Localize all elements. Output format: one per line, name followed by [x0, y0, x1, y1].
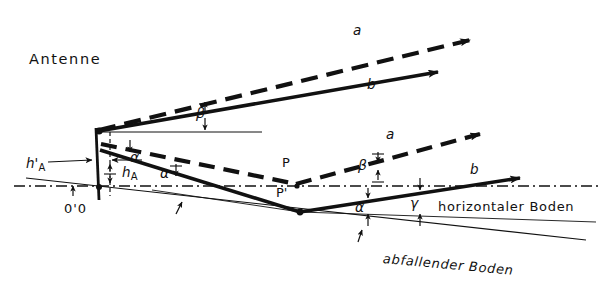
slope-angle-arrow-left: [176, 202, 182, 214]
point-p-prime-label: P': [276, 186, 287, 199]
ray-a-lower: [101, 134, 480, 184]
gamma-right-label: γ: [410, 196, 418, 210]
ray-a-upper: [99, 40, 470, 130]
h-a-label: hA: [122, 166, 138, 182]
h-a-sub: A: [131, 171, 138, 182]
origin-label: 0'0: [64, 202, 87, 215]
antenna-label: Antenne: [29, 52, 101, 67]
beta-lower-angle-arrow: [372, 152, 384, 182]
point-p-label: P: [282, 156, 290, 169]
ray-a-lower-label: a: [386, 128, 394, 142]
alpha-left-upper-label: α: [130, 150, 139, 164]
h-a-base: h: [122, 164, 131, 180]
ray-a-upper-label: a: [353, 24, 361, 38]
beta-lower-label: β: [358, 158, 367, 172]
h-a-prime-dimension: [48, 160, 92, 162]
alpha-right-label: α: [355, 200, 364, 214]
diagram-svg: [0, 0, 604, 294]
beta-upper-label: β: [196, 106, 205, 120]
h-a-prime-sub: A: [38, 162, 45, 173]
diagram-canvas: Antenne a b β a b h'A hA α α 0'0 P P' β …: [0, 0, 604, 294]
h-a-prime-label: h'A: [26, 157, 45, 173]
h-a-prime-base: h: [26, 155, 35, 171]
ray-b-lower-label: b: [470, 163, 479, 177]
slope-angle-arrow-right: [358, 230, 362, 242]
ray-b-upper: [99, 72, 438, 131]
horizontal-ground-label: horizontaler Boden: [438, 200, 574, 213]
alpha-left-lower-label: α: [160, 166, 169, 180]
ray-b-upper-label: b: [367, 78, 376, 92]
